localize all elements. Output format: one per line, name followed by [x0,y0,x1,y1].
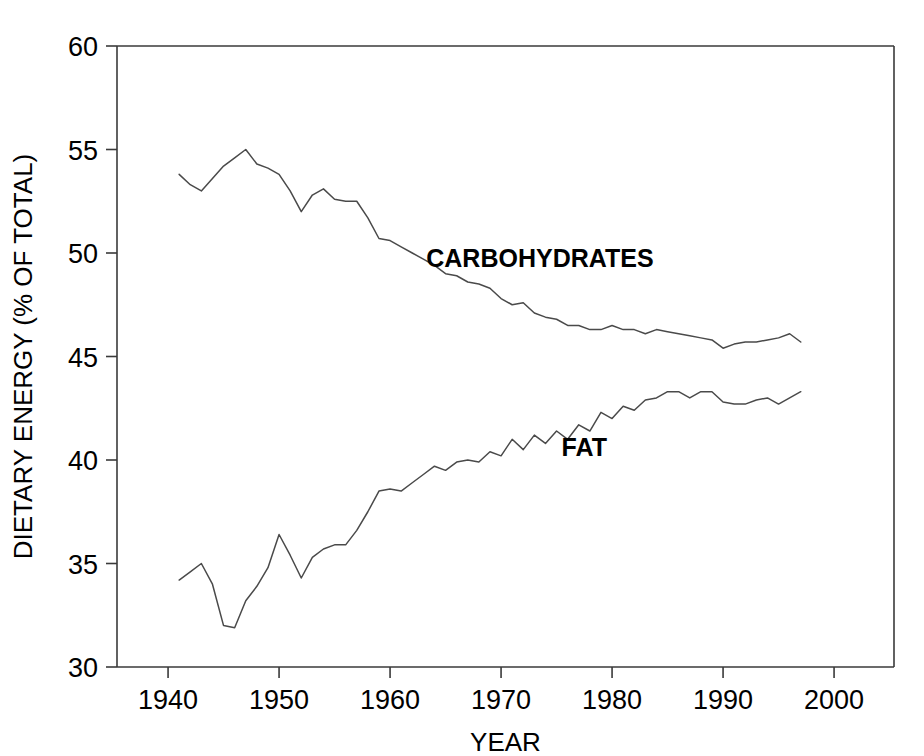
chart-figure: CARBOHYDRATESFAT 30354045505560 19401950… [0,0,924,756]
y-tick-label-60: 60 [68,32,98,62]
x-tick-label-1950: 1950 [249,685,309,715]
y-tick-label-50: 50 [68,239,98,269]
x-axis-title: YEAR [470,727,541,756]
y-tick-label-40: 40 [68,446,98,476]
y-axis-tick-labels: 30354045505560 [68,32,98,683]
x-tick-label-1980: 1980 [582,685,642,715]
y-axis-ticks [106,46,117,667]
y-tick-label-35: 35 [68,550,98,580]
data-series-group [179,150,801,628]
x-axis-tick-labels: 1940195019601970198019902000 [138,685,864,715]
x-tick-label-2000: 2000 [804,685,864,715]
series-annotations: CARBOHYDRATESFAT [426,244,653,460]
x-tick-label-1990: 1990 [693,685,753,715]
x-tick-label-1940: 1940 [138,685,198,715]
y-axis-title: DIETARY ENERGY (% OF TOTAL) [8,154,38,560]
series-line-fat [179,392,801,628]
y-tick-label-55: 55 [68,136,98,166]
x-axis-ticks [168,667,834,678]
y-tick-label-45: 45 [68,343,98,373]
x-tick-label-1970: 1970 [471,685,531,715]
line-chart: CARBOHYDRATESFAT 30354045505560 19401950… [0,0,924,756]
x-tick-label-1960: 1960 [360,685,420,715]
series-label-fat: FAT [562,433,607,461]
series-label-carbohydrates: CARBOHYDRATES [426,244,653,272]
y-tick-label-30: 30 [68,653,98,683]
